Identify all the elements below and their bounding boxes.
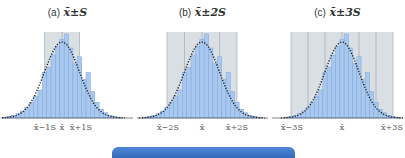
xlabel-minus: x̄−1S: [34, 123, 56, 132]
panel-a: (a) x̄±S x̄−1S x̄ x̄+1S: [0, 0, 135, 140]
xlabel-plus: x̄+3S: [381, 123, 403, 132]
histogram-plot: [270, 0, 405, 125]
footer-banner: [112, 147, 295, 158]
xlabel-minus: x̄−3S: [281, 123, 303, 132]
xlabel-mean: x̄: [200, 123, 205, 132]
xlabel-mean: x̄: [340, 123, 345, 132]
xlabel-plus: x̄+1S: [70, 123, 92, 132]
xlabel-minus: x̄−2S: [157, 123, 179, 132]
panel-c: (c) x̄±3S x̄−3S x̄ x̄+3S: [270, 0, 405, 140]
histogram-plot: [135, 0, 270, 125]
xlabel-plus: x̄+2S: [226, 123, 248, 132]
panel-b: (b) x̄±2S x̄−2S x̄ x̄+2S: [135, 0, 270, 140]
histogram-plot: [0, 0, 135, 125]
xlabel-mean: x̄: [60, 123, 65, 132]
